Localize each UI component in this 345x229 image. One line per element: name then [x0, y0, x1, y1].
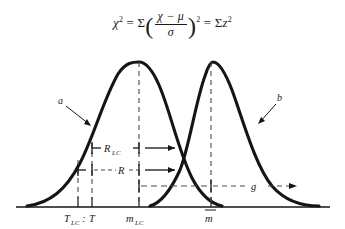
- axis-label-t-main: T: [89, 213, 96, 224]
- curve-b-label: b: [277, 92, 282, 103]
- axis-label-m-bar-main: m: [205, 213, 213, 224]
- r-lc-label-sub: LC: [111, 149, 121, 157]
- curve-a-leader-line: [66, 106, 89, 124]
- axis-label-t-lc-main: T: [64, 213, 71, 224]
- r-label-main: R: [117, 165, 125, 176]
- g-arrow-head: [289, 183, 297, 189]
- curve-a-label: a: [58, 95, 63, 106]
- distribution-plot: R LC R g a b: [0, 0, 345, 229]
- chi-square-distribution-figure: χ2 = Σ(χ − μσ)2 = Σz2: [0, 0, 345, 229]
- axis-label-separator: :: [82, 213, 86, 224]
- axis-label-m-lc-main: m: [126, 213, 134, 224]
- r-lc-arrow-head: [168, 145, 175, 151]
- curve-a-leader-arrow: [84, 119, 91, 126]
- r-lc-label-main: R: [103, 143, 111, 154]
- axis-label-m-lc-sub: LC: [134, 219, 144, 227]
- curve-a: [27, 62, 222, 206]
- axis-label-t-lc-sub: LC: [70, 219, 80, 227]
- g-label-main: g: [251, 181, 256, 192]
- r-arrow-head: [168, 167, 175, 173]
